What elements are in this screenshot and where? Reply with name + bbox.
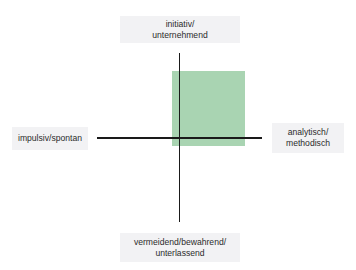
label-left: impulsiv/spontan bbox=[12, 127, 88, 150]
label-bottom-line2: unterlassend bbox=[134, 248, 226, 259]
label-top-line1: initiativ/ bbox=[152, 19, 207, 30]
label-bottom: vermeidend/bewahrend/ unterlassend bbox=[120, 233, 240, 262]
highlight-area-upper-right bbox=[172, 71, 245, 146]
label-right-line1: analytisch/ bbox=[286, 127, 330, 138]
label-left-line1: impulsiv/spontan bbox=[18, 133, 82, 144]
label-top-line2: unternehmend bbox=[152, 30, 207, 41]
label-bottom-line1: vermeidend/bewahrend/ bbox=[134, 237, 226, 248]
label-right-line2: methodisch bbox=[286, 138, 330, 149]
quadrant-diagram: initiativ/ unternehmend impulsiv/spontan… bbox=[0, 0, 356, 270]
label-right: analytisch/ methodisch bbox=[272, 123, 344, 153]
label-top: initiativ/ unternehmend bbox=[120, 16, 240, 43]
horizontal-axis bbox=[97, 137, 262, 139]
